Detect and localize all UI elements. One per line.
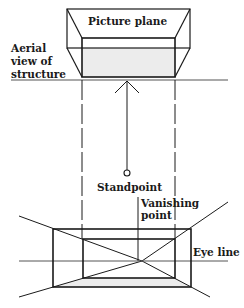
eye-line-label: Eye line	[193, 246, 240, 258]
vanishing-label-line2: point	[141, 209, 172, 221]
standpoint-label: Standpoint	[97, 181, 162, 193]
vanishing-label-line1: Vanishing	[140, 197, 200, 209]
aerial-label-line1: Aerial	[10, 42, 46, 54]
structure-shaded-face	[82, 48, 175, 77]
standpoint-arrow	[115, 81, 139, 176]
aerial-label-line3: structure	[11, 68, 66, 80]
aerial-label-line2: view of	[10, 55, 53, 67]
perspective-diagram: Picture plane Aerial view of structure S…	[0, 0, 244, 308]
standpoint-circle-icon	[124, 170, 130, 176]
floor-shade	[53, 278, 191, 287]
aerial-view-label: Aerial view of structure	[10, 42, 66, 80]
picture-plane-label: Picture plane	[88, 15, 167, 27]
